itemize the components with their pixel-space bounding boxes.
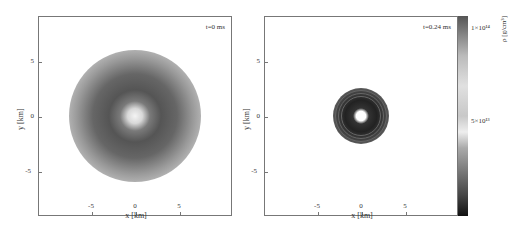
- x-tick: [318, 212, 319, 216]
- x-tick-label: 5: [403, 202, 407, 210]
- time-annotation: t=0.24 ms: [423, 23, 451, 31]
- y-tick: [38, 117, 42, 118]
- x-tick-label: -5: [88, 202, 94, 210]
- y-tick-label: -5: [245, 167, 257, 175]
- x-tick-label: 5: [177, 202, 181, 210]
- colorbar-tick-mid: 5×10¹³: [471, 117, 490, 125]
- y-axis-label: y [km]: [16, 108, 25, 130]
- colorbar: [458, 16, 468, 216]
- y-axis-label: y [km]: [242, 108, 251, 130]
- x-tick: [180, 212, 181, 216]
- x-tick-label: -5: [314, 202, 320, 210]
- density-distribution-t0: [69, 50, 201, 182]
- y-tick: [264, 172, 268, 173]
- x-tick-label: 0: [133, 202, 137, 210]
- plot-panel-t0: t=0 ms: [38, 16, 232, 216]
- y-tick-label: 5: [248, 57, 260, 65]
- colorbar-tick-high: 1×10¹⁴: [471, 24, 490, 32]
- x-tick: [92, 212, 93, 216]
- x-tick: [406, 212, 407, 216]
- y-tick-label: 5: [22, 57, 34, 65]
- y-tick: [38, 172, 42, 173]
- y-tick: [38, 62, 42, 63]
- y-tick-label: -5: [19, 167, 31, 175]
- x-tick-label: 0: [359, 202, 363, 210]
- time-annotation: t=0 ms: [206, 23, 225, 31]
- colorbar-title: ρ [g/cm³]: [500, 16, 508, 42]
- contour-ring: [341, 96, 381, 136]
- plot-panel-t024: t=0.24 ms: [264, 16, 458, 216]
- x-axis-label: x [km]: [351, 211, 373, 220]
- x-axis-label: x [km]: [125, 211, 147, 220]
- y-tick: [264, 117, 268, 118]
- y-tick: [264, 62, 268, 63]
